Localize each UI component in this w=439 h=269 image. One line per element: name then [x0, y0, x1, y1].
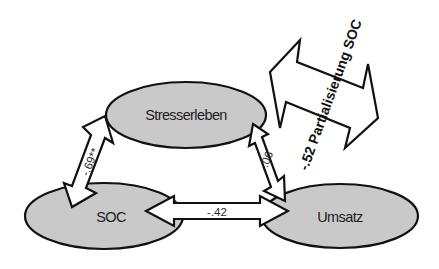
path-diagram: Stresserleben SOC Umsatz -.69** -.06 -.4…: [0, 0, 439, 269]
diagram-canvas: Stresserleben SOC Umsatz -.69** -.06 -.4…: [0, 0, 439, 269]
edge-label-soc-umsatz: -.42: [207, 206, 227, 218]
stresserleben-label: Stresserleben: [145, 107, 227, 123]
soc-label: SOC: [96, 209, 126, 225]
umsatz-label: Umsatz: [317, 209, 363, 225]
